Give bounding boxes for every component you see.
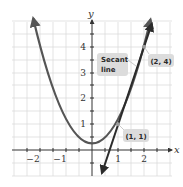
x-tick-label: −2 — [26, 154, 39, 164]
y-tick-labels: 1 2 3 4 — [80, 42, 86, 129]
y-tick-label: 4 — [80, 42, 86, 52]
x-tick-label: 2 — [141, 154, 147, 164]
x-tick-label: 1 — [115, 154, 121, 164]
point-1-1-label-box: (1, 1) — [123, 129, 149, 142]
secant-callout-line1: Secant — [101, 56, 129, 64]
y-axis-label: y — [87, 8, 94, 19]
secant-line-figure: x y −2 −1 1 2 1 2 3 4 Secant line (2, 4)… — [0, 0, 183, 187]
point-2-4-label-box: (2, 4) — [148, 54, 174, 67]
leader-secant — [128, 60, 136, 66]
point-1-1-label: (1, 1) — [125, 133, 146, 141]
x-tick-label: −1 — [53, 154, 66, 164]
leader-point-1-1 — [119, 125, 124, 130]
x-tick-labels: −2 −1 1 2 — [26, 154, 147, 164]
point-2-4-label: (2, 4) — [150, 58, 171, 66]
y-tick-label: 3 — [80, 68, 86, 78]
secant-callout-line2: line — [101, 66, 116, 74]
x-axis-label: x — [174, 144, 180, 155]
y-tick-label: 2 — [80, 93, 86, 103]
secant-callout: Secant line — [97, 53, 129, 76]
leader-point-2-4 — [145, 48, 149, 54]
y-tick-label: 1 — [80, 119, 86, 129]
